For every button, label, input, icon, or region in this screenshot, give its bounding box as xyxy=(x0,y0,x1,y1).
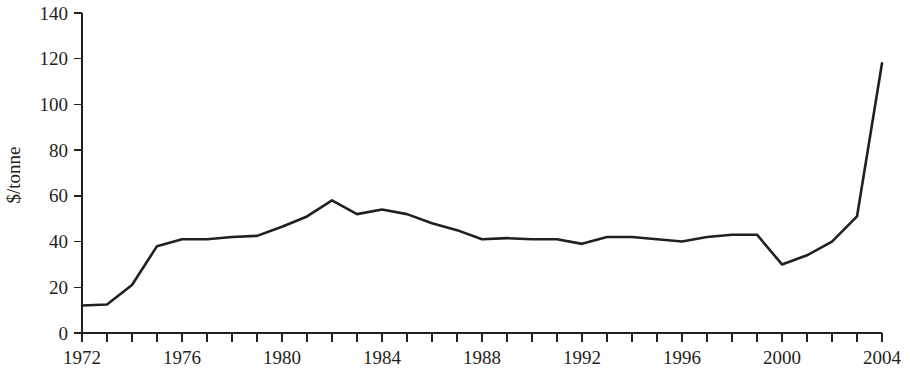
y-tick-label: 60 xyxy=(49,185,68,206)
x-tick-label: 1984 xyxy=(363,347,402,368)
x-tick-label: 1976 xyxy=(163,347,201,368)
y-axis-ticks xyxy=(74,13,82,333)
y-tick-label: 100 xyxy=(40,94,69,115)
y-tick-label: 120 xyxy=(40,48,69,69)
x-tick-label: 1988 xyxy=(463,347,501,368)
x-tick-label: 1980 xyxy=(263,347,301,368)
y-tick-label: 140 xyxy=(40,3,69,24)
x-axis: 197219761980198419881992199620002004 xyxy=(63,333,902,368)
price-chart: 020406080100120140 197219761980198419881… xyxy=(0,0,908,390)
y-axis: 020406080100120140 xyxy=(40,3,83,344)
x-axis-tick-labels: 197219761980198419881992199620002004 xyxy=(63,347,902,368)
x-tick-label: 1996 xyxy=(663,347,701,368)
y-tick-label: 20 xyxy=(49,277,68,298)
x-tick-label: 1972 xyxy=(63,347,101,368)
y-axis-tick-labels: 020406080100120140 xyxy=(40,3,69,344)
y-tick-label: 0 xyxy=(59,323,69,344)
x-axis-ticks xyxy=(82,333,882,342)
data-series-line xyxy=(82,63,882,305)
x-tick-label: 2004 xyxy=(863,347,902,368)
y-tick-label: 80 xyxy=(49,140,68,161)
chart-canvas: 020406080100120140 197219761980198419881… xyxy=(0,0,908,390)
x-tick-label: 1992 xyxy=(563,347,601,368)
y-axis-title: $/tonne xyxy=(3,147,24,204)
x-tick-label: 2000 xyxy=(763,347,801,368)
y-tick-label: 40 xyxy=(49,231,68,252)
